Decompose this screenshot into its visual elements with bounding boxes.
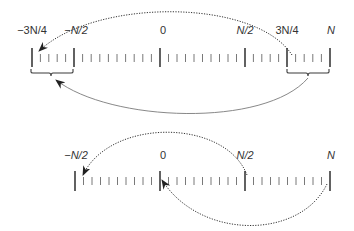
label-neg-3n-4: −3N/4 bbox=[17, 24, 47, 36]
label-zero: 0 bbox=[160, 149, 166, 161]
label-zero: 0 bbox=[160, 24, 166, 36]
minor-ticks bbox=[40, 54, 321, 62]
major-ticks bbox=[32, 48, 330, 67]
top-number-line: −3N/4 −N/2 0 N/2 3N/4 N bbox=[17, 12, 335, 114]
label-n-2: N/2 bbox=[236, 149, 253, 161]
label-n: N bbox=[327, 24, 335, 36]
bottom-number-line: −N/2 0 N/2 N bbox=[64, 132, 335, 225]
label-neg-n-2: −N/2 bbox=[64, 149, 88, 161]
label-3n-4: 3N/4 bbox=[275, 24, 298, 36]
label-neg-n-2: −N/2 bbox=[64, 24, 88, 36]
fft-shift-diagram: −3N/4 −N/2 0 N/2 3N/4 N bbox=[0, 0, 354, 231]
label-n-2: N/2 bbox=[236, 24, 253, 36]
minor-ticks bbox=[84, 177, 322, 185]
left-bracket bbox=[31, 69, 73, 76]
label-n: N bbox=[327, 149, 335, 161]
right-bracket bbox=[287, 69, 329, 76]
bottom-solid-arc bbox=[56, 78, 308, 114]
